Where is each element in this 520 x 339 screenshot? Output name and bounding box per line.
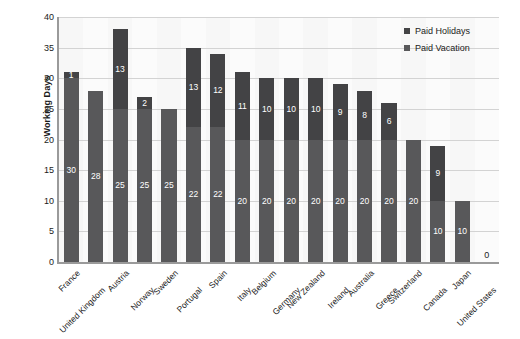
y-axis-tick-label: 35 <box>24 43 54 53</box>
bar-segment-vacation[interactable]: 20 <box>333 140 348 263</box>
bar-segment-value: 2 <box>142 99 147 108</box>
bar-segment-value: 9 <box>338 108 343 117</box>
legend-item-label: Paid Holidays <box>415 26 470 36</box>
bar-segment-value: 10 <box>262 105 271 114</box>
bar-segment-value: 20 <box>360 197 369 206</box>
bar-segment-vacation[interactable]: 22 <box>186 127 201 262</box>
bar-segment-vacation[interactable]: 20 <box>308 140 323 263</box>
bar-segment-value: 25 <box>115 181 124 190</box>
gridline <box>59 17 499 18</box>
bar-column[interactable]: 301 <box>64 72 79 262</box>
bar-column[interactable]: 2513 <box>113 29 128 262</box>
bar-column[interactable]: 2212 <box>210 54 225 262</box>
bar-segment-value: 10 <box>458 227 467 236</box>
bar-segment-holidays[interactable]: 9 <box>430 146 445 201</box>
bar-segment-vacation[interactable]: 20 <box>406 140 421 263</box>
bar-segment-holidays[interactable]: 10 <box>308 78 323 139</box>
bar-segment-vacation[interactable]: 25 <box>113 109 128 262</box>
y-axis-tick-label: 5 <box>24 226 54 236</box>
bar-segment-value: 12 <box>213 86 222 95</box>
bar-segment-value: 20 <box>286 197 295 206</box>
bar-segment-vacation[interactable]: 20 <box>357 140 372 263</box>
legend: Paid HolidaysPaid Vacation <box>404 26 470 53</box>
bar-column[interactable]: 2213 <box>186 48 201 262</box>
bar-column[interactable]: 2010 <box>259 78 274 262</box>
bar-segment-holidays[interactable]: 10 <box>259 78 274 139</box>
bar-column[interactable]: 109 <box>430 146 445 262</box>
legend-swatch-icon <box>404 28 410 34</box>
bar-segment-value: 20 <box>384 197 393 206</box>
bar-column[interactable]: 28 <box>88 91 103 263</box>
bar-segment-value: 30 <box>66 166 75 175</box>
bar-segment-holidays[interactable]: 13 <box>186 48 201 128</box>
bar-segment-vacation[interactable]: 20 <box>284 140 299 263</box>
bar-column[interactable]: 2010 <box>284 78 299 262</box>
bar-segment-vacation[interactable]: 20 <box>259 140 274 263</box>
bar-segment-vacation[interactable]: 25 <box>137 109 152 262</box>
bar-segment-value: 20 <box>262 197 271 206</box>
bar-column[interactable]: 208 <box>357 91 372 263</box>
legend-swatch-icon <box>404 45 410 51</box>
bar-segment-value: 11 <box>238 102 247 111</box>
bar-column[interactable]: 209 <box>333 84 348 262</box>
bar-segment-holidays[interactable]: 12 <box>210 54 225 128</box>
bar-segment-value: 28 <box>91 172 100 181</box>
bar-segment-value: 25 <box>164 181 173 190</box>
bar-segment-value: 10 <box>433 227 442 236</box>
bar-segment-vacation[interactable]: 25 <box>161 109 176 262</box>
bar-segment-vacation[interactable]: 20 <box>235 140 250 263</box>
bar-segment-value: 20 <box>335 197 344 206</box>
zero-value-label: 0 <box>475 250 499 260</box>
bar-segment-value: 25 <box>140 181 149 190</box>
bar-segment-holidays[interactable]: 6 <box>381 103 396 140</box>
legend-item[interactable]: Paid Vacation <box>404 43 470 53</box>
bar-segment-value: 13 <box>115 65 124 74</box>
bar-column[interactable]: 252 <box>137 97 152 262</box>
bar-segment-value: 6 <box>387 117 392 126</box>
bar-segment-vacation[interactable]: 28 <box>88 91 103 263</box>
bar-column[interactable]: 10 <box>455 201 470 262</box>
bar-segment-value: 1 <box>69 72 74 78</box>
bar-segment-value: 10 <box>311 105 320 114</box>
y-axis-tick-label: 40 <box>24 12 54 22</box>
bar-segment-value: 22 <box>213 190 222 199</box>
bar-segment-value: 20 <box>238 197 247 206</box>
bar-segment-holidays[interactable]: 8 <box>357 91 372 140</box>
plot-area: 0510152025303540 30128251325225221322122… <box>57 17 499 264</box>
bar-column[interactable]: 25 <box>161 109 176 262</box>
bar-segment-value: 20 <box>409 197 418 206</box>
bar-segment-value: 8 <box>362 111 367 120</box>
bar-column[interactable]: 206 <box>381 103 396 262</box>
y-axis-tick-label: 0 <box>24 257 54 267</box>
bar-segment-vacation[interactable]: 20 <box>381 140 396 263</box>
bar-segment-value: 10 <box>286 105 295 114</box>
y-axis-tick-label: 25 <box>24 104 54 114</box>
bar-segment-vacation[interactable]: 22 <box>210 127 225 262</box>
y-axis-tick-label: 15 <box>24 165 54 175</box>
y-axis-tick-label: 10 <box>24 196 54 206</box>
bar-chart: Working Days 0510152025303540 3012825132… <box>0 0 520 339</box>
bar-segment-holidays[interactable]: 13 <box>113 29 128 109</box>
bar-segment-vacation[interactable]: 30 <box>64 78 79 262</box>
y-axis-tick-label: 30 <box>24 73 54 83</box>
legend-item-label: Paid Vacation <box>415 43 470 53</box>
bar-segment-holidays[interactable]: 2 <box>137 97 152 109</box>
bar-segment-value: 9 <box>436 169 441 178</box>
y-axis-tick-label: 20 <box>24 135 54 145</box>
bar-column[interactable]: 2011 <box>235 72 250 262</box>
bar-segment-value: 20 <box>311 197 320 206</box>
bar-segment-holidays[interactable]: 11 <box>235 72 250 139</box>
bar-segment-holidays[interactable]: 1 <box>64 72 79 78</box>
bar-segment-holidays[interactable]: 10 <box>284 78 299 139</box>
legend-item[interactable]: Paid Holidays <box>404 26 470 36</box>
bar-segment-vacation[interactable]: 10 <box>430 201 445 262</box>
bar-segment-vacation[interactable]: 10 <box>455 201 470 262</box>
bar-segment-value: 22 <box>189 190 198 199</box>
bar-column[interactable]: 2010 <box>308 78 323 262</box>
bar-segment-holidays[interactable]: 9 <box>333 84 348 139</box>
bar-column[interactable]: 20 <box>406 140 421 263</box>
bar-segment-value: 13 <box>189 83 198 92</box>
